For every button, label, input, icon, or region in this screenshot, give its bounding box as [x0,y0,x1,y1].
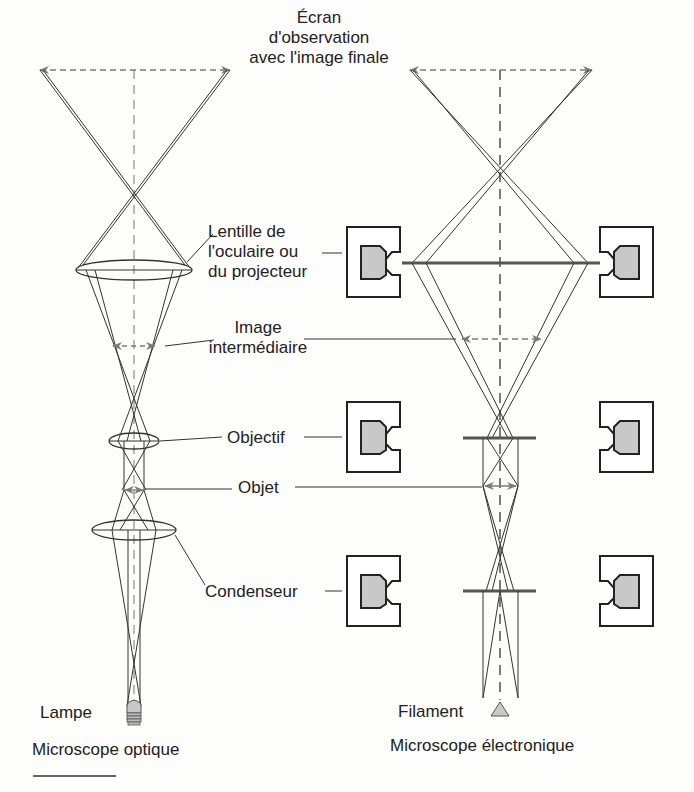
label-screen: Écran d'observation avec l'image finale [234,8,404,68]
leader-condenser [175,535,205,585]
leader-intermediate-left [165,340,214,346]
label-filament: Filament [398,702,463,722]
label-objective: Objectif [227,428,285,448]
leader-objective-left [160,437,222,441]
coil-right-projector [600,227,653,297]
electron-microscope [295,70,600,716]
coil-right-objective [600,402,653,472]
optical-microscope [40,70,232,725]
caption-electron-microscope: Microscope électronique [390,736,574,756]
coil-left-condenser [347,556,400,626]
filament-icon [491,702,509,716]
caption-optical-microscope: Microscope optique [32,740,179,760]
label-eyepiece-projector: Lentille de l'oculaire ou du projecteur [208,222,307,282]
label-lamp: Lampe [40,703,92,723]
coil-left-objective [347,402,400,472]
lamp-icon [127,700,141,725]
coil-left-projector [347,227,400,297]
label-intermediate-image: Image intermédiaire [208,318,308,358]
label-condenser: Condenseur [205,582,298,602]
microscope-comparison-diagram [0,0,694,792]
label-object: Objet [238,478,279,498]
coil-right-condenser [600,556,653,626]
